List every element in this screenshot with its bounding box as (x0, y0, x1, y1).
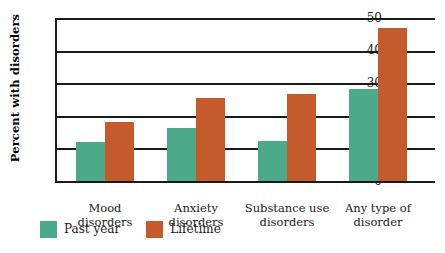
bar-lifetime-mood (105, 122, 134, 181)
x-category-label-any-type-line2: disorder (326, 216, 430, 230)
chart-legend: Past year Lifetime (40, 218, 221, 240)
bar-lifetime-substance-use (287, 94, 316, 181)
legend-swatch-past-year-icon (40, 221, 57, 238)
x-category-label-any-type-line1: Any type of (326, 202, 430, 216)
gridline-50 (57, 18, 435, 20)
bar-past-year-any-type (349, 89, 378, 181)
x-category-label-any-type: Any type of disorder (326, 202, 430, 229)
x-axis-line (55, 181, 435, 183)
bar-lifetime-anxiety (196, 98, 225, 181)
bar-past-year-substance-use (258, 141, 287, 181)
legend-label-lifetime: Lifetime (170, 222, 221, 236)
y-axis-title: Percent with disorders (6, 0, 24, 178)
x-category-label-anxiety-line1: Anxiety (144, 202, 248, 216)
legend-item-past-year: Past year (40, 221, 120, 238)
x-category-label-substance-use-line1: Substance use (235, 202, 339, 216)
legend-swatch-lifetime-icon (146, 221, 163, 238)
x-category-label-mood-line1: Mood (53, 202, 157, 216)
bar-past-year-anxiety (167, 128, 196, 182)
x-category-label-substance-use-line2: disorders (235, 216, 339, 230)
plot-area: Mood disorders Anxiety disorders Substan… (57, 18, 435, 181)
bar-past-year-mood (76, 142, 105, 181)
bar-chart-figure: Percent with disorders 0 10 20 30 40 50 … (0, 0, 445, 253)
x-category-label-substance-use: Substance use disorders (235, 202, 339, 229)
bar-lifetime-any-type (378, 28, 407, 181)
legend-label-past-year: Past year (64, 222, 120, 236)
legend-item-lifetime: Lifetime (146, 221, 221, 238)
y-axis-line (55, 18, 57, 183)
